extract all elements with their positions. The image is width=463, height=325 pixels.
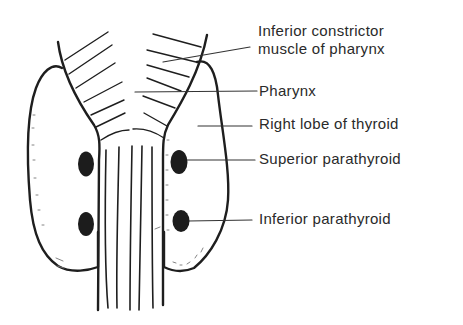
label-inferior-constrictor-line2: muscle of pharynx xyxy=(258,41,385,57)
leader-pharynx xyxy=(135,91,257,92)
constrictor-fibres-left xyxy=(65,32,125,127)
leader-inferior-parathyroid xyxy=(188,220,252,221)
label-inferior-constrictor-line1: Inferior constrictor xyxy=(258,23,385,39)
oesophagus-fibres xyxy=(105,146,153,310)
left-superior-parathyroid xyxy=(78,152,94,177)
label-right-lobe-thyroid: Right lobe of thyroid xyxy=(259,116,399,132)
pharynx-lower-arc xyxy=(101,129,164,140)
label-inferior-parathyroid: Inferior parathyroid xyxy=(259,211,391,227)
left-inferior-parathyroid xyxy=(78,212,94,236)
right-superior-parathyroid xyxy=(171,150,188,174)
label-superior-parathyroid: Superior parathyroid xyxy=(259,151,401,167)
right-inferior-parathyroid xyxy=(173,210,190,232)
label-pharynx: Pharynx xyxy=(259,83,316,99)
label-inferior-constrictor: Inferior constrictor muscle of pharynx xyxy=(258,23,385,57)
parathyroid-glands xyxy=(78,150,190,236)
leader-inferior-constrictor xyxy=(163,47,250,62)
